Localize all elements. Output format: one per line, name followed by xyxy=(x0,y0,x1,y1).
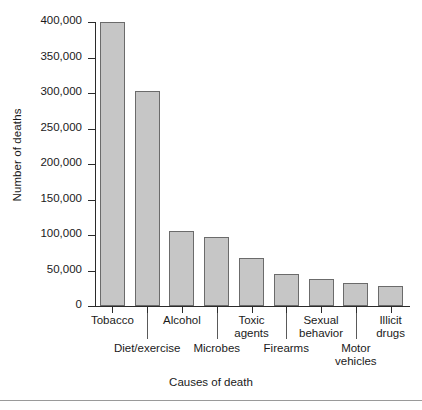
y-tick-label: 250,000 xyxy=(40,121,82,133)
y-tick-label: 50,000 xyxy=(47,263,82,275)
y-tick-mark xyxy=(88,129,95,130)
x-tick-mark xyxy=(252,307,253,313)
x-axis-title-text: Causes of death xyxy=(169,376,253,388)
y-tick-label: 350,000 xyxy=(40,50,82,62)
category-label-line1: Motor xyxy=(341,342,370,354)
y-tick-mark xyxy=(88,58,95,59)
y-tick-label: 200,000 xyxy=(40,156,82,168)
x-tick-mark xyxy=(182,307,183,313)
y-tick-mark xyxy=(88,271,95,272)
bar xyxy=(274,274,299,306)
bar xyxy=(378,286,403,306)
bar xyxy=(239,258,264,306)
bar xyxy=(135,91,160,306)
y-tick-mark xyxy=(88,22,95,23)
y-tick-label: 400,000 xyxy=(40,14,82,26)
y-tick-mark xyxy=(88,93,95,94)
y-tick-mark xyxy=(88,235,95,236)
bar xyxy=(100,22,125,306)
x-axis-title: Causes of death xyxy=(0,376,422,388)
y-tick-label: 0 xyxy=(76,298,82,310)
x-tick-mark xyxy=(321,307,322,313)
bottom-divider xyxy=(0,400,422,401)
bar xyxy=(343,283,368,306)
y-tick-label: 150,000 xyxy=(40,192,82,204)
bar xyxy=(309,279,334,306)
bar-chart-figure: Number of deaths 050,000100,000150,00020… xyxy=(0,0,422,410)
y-tick-mark xyxy=(88,164,95,165)
y-tick-mark xyxy=(88,306,95,307)
y-axis-title-text: Number of deaths xyxy=(10,108,22,201)
bar xyxy=(169,231,194,306)
y-tick-label: 100,000 xyxy=(40,227,82,239)
category-label-line2: vehicles xyxy=(311,355,401,368)
category-label: Illicitdrugs xyxy=(346,314,422,340)
category-label-line2: drugs xyxy=(346,327,422,340)
bar xyxy=(204,237,229,306)
category-label-line1: Sexual xyxy=(303,314,338,326)
category-label-line1: Toxic xyxy=(238,314,264,326)
y-tick-mark xyxy=(88,200,95,201)
x-tick-mark xyxy=(391,307,392,313)
x-tick-mark xyxy=(112,307,113,313)
plot-area xyxy=(95,22,408,306)
category-label: Motorvehicles xyxy=(311,342,401,368)
y-tick-label: 300,000 xyxy=(40,85,82,97)
y-axis-title: Number of deaths xyxy=(2,0,30,310)
category-label-line1: Illicit xyxy=(379,314,401,326)
